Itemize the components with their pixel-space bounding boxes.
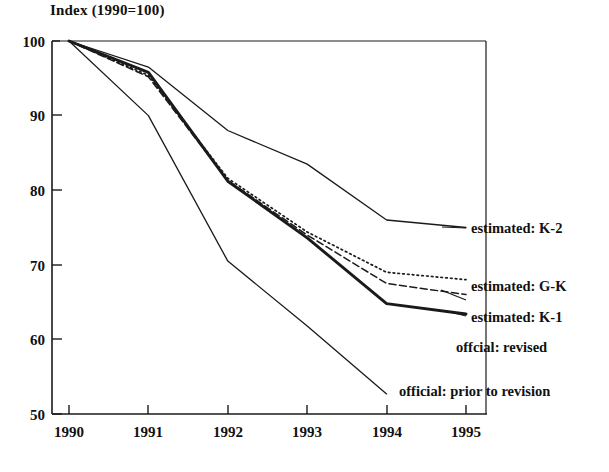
x-axis-labels: 1990 1991 1992 1993 1994 1995 [54,424,481,440]
series-label-estimated-gk: estimated: G-K [471,278,567,294]
y-tick-label-70: 70 [30,258,45,274]
x-tick-label-1991: 1991 [133,424,163,440]
y-tick-label-100: 100 [23,34,46,50]
y-axis-labels: 100 90 80 70 60 50 [23,34,46,423]
series-line-estimated-k1 [69,41,466,295]
chart-figure: Index (1990=100) 100 90 80 70 60 50 [0,0,609,472]
y-tick-label-60: 60 [30,332,45,348]
y-tick-label-50: 50 [30,407,45,423]
series-line-estimated-gk [69,41,466,280]
series-line-official-revised [69,41,466,314]
series-label-official-revised: offcial: revised [456,339,547,355]
series-label-official-prior: official: prior to revision [399,383,550,399]
x-tick-label-1990: 1990 [54,424,84,440]
series-label-estimated-k1: estimated: K-1 [471,309,562,325]
chart-plot-area: 100 90 80 70 60 50 1990 1991 1992 1993 1… [0,0,609,472]
y-tick-label-80: 80 [30,183,45,199]
x-tick-label-1993: 1993 [292,424,322,440]
annotation-leaders [441,227,466,316]
leader-line-gk [441,290,466,300]
series-label-estimated-k2: estimated: K-2 [471,220,562,236]
x-tick-label-1995: 1995 [451,424,481,440]
x-axis-ticks [69,405,466,414]
axis-frame [52,41,487,414]
series-group [69,41,466,394]
x-tick-label-1992: 1992 [213,424,243,440]
series-line-official-prior [69,41,387,394]
x-tick-label-1994: 1994 [372,424,403,440]
series-line-estimated-k2 [69,41,466,228]
y-axis-ticks [52,41,62,414]
y-tick-label-90: 90 [30,108,45,124]
